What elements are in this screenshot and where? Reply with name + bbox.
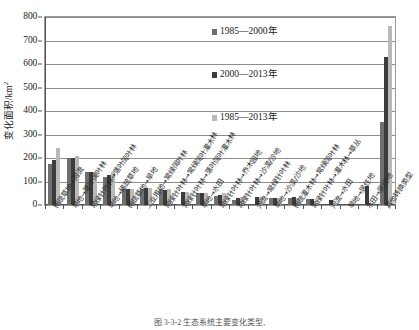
y-tick-mark — [38, 158, 42, 159]
legend-swatch-icon — [212, 115, 217, 121]
y-tick-mark — [38, 134, 42, 135]
y-tick-mark — [38, 181, 42, 182]
legend-item: 1985—2000年 — [212, 20, 322, 43]
y-tick-label: 300 — [23, 130, 37, 140]
y-tick-label: 500 — [23, 83, 37, 93]
x-axis-category-labels: 稀疏草地→河流旱地→落叶阔叶林常绿针叶林→落叶阔叶林旱地→稀疏草地稀疏草地→旱地… — [0, 206, 419, 316]
legend-swatch-icon — [212, 72, 217, 78]
y-tick-label: 400 — [23, 106, 37, 116]
bar-group — [340, 17, 358, 205]
y-tick-label: 800 — [23, 12, 37, 22]
y-axis-tick-labels: 0100200300400500600700800 — [0, 16, 42, 206]
legend-label: 1985—2000年 — [220, 27, 278, 37]
y-tick-mark — [38, 111, 42, 112]
y-tick-label: 600 — [23, 59, 37, 69]
legend-label: 2000—2013年 — [220, 70, 278, 80]
legend-swatch-icon — [212, 29, 217, 35]
legend-item: 2000—2013年 — [212, 63, 322, 86]
y-tick-mark — [38, 17, 42, 18]
legend-label: 1985—2013年 — [220, 113, 278, 123]
legend-item: 1985—2013年 — [212, 106, 322, 129]
y-tick-mark — [38, 87, 42, 88]
figure-caption: 图 3-3-2 生态系统主要变化类型, — [0, 318, 419, 330]
y-tick-label: 700 — [23, 36, 37, 46]
y-tick-mark — [38, 64, 42, 65]
y-tick-label: 200 — [23, 153, 37, 163]
bar-group — [45, 17, 63, 205]
y-tick-mark — [38, 40, 42, 41]
legend: 1985—2000年 2000—2013年 1985—2013年 — [212, 20, 322, 149]
figure-chart-land-use-change: 变化面积/km2 0100200300400500600700800 稀疏草地→… — [0, 0, 419, 330]
y-tick-label: 100 — [23, 177, 37, 187]
